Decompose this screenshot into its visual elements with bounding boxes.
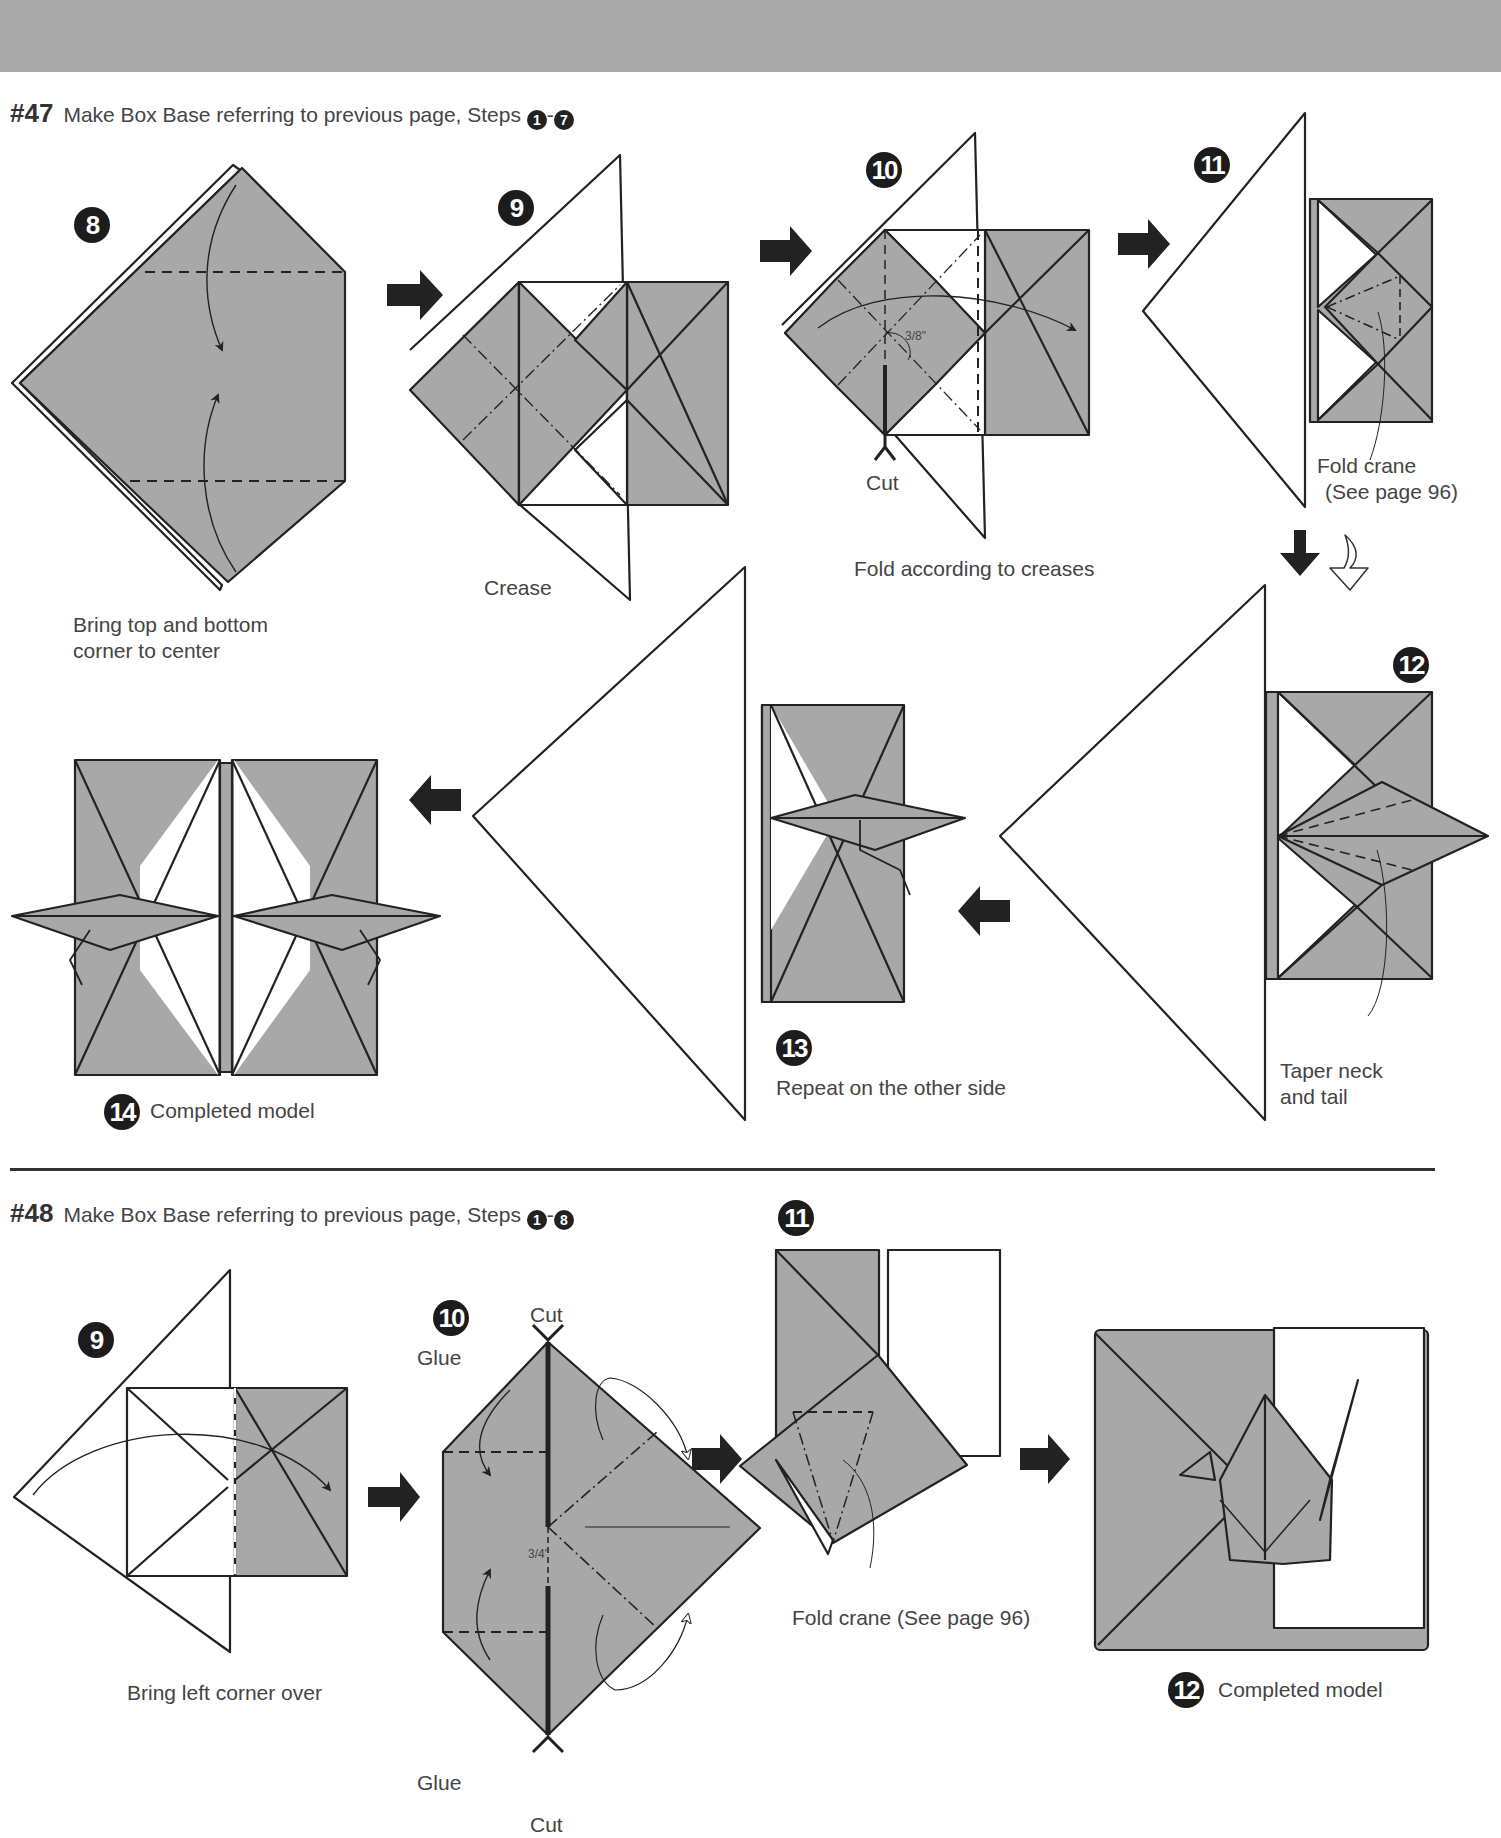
step-8-caption: Bring top and bottom corner to center [73, 612, 268, 664]
step-number-8: 8 [74, 207, 110, 243]
step-14-diagram [12, 760, 440, 1075]
caption-line: corner to center [73, 638, 268, 664]
range-separator: - [547, 1203, 554, 1226]
step-number-48-12: 12 [1168, 1672, 1204, 1708]
step-badge-start: 1 [527, 1210, 547, 1230]
cut-top-label: Cut [530, 1302, 563, 1328]
caption-line: Taper neck [1280, 1058, 1383, 1084]
step-11-caption: Fold crane (See page 96) [1317, 453, 1458, 505]
step-14-caption: Completed model [150, 1098, 315, 1124]
step-48-10-diagram [443, 1325, 760, 1752]
prev-arrow-icon [409, 775, 461, 825]
section-number: #48 [10, 1198, 53, 1228]
step-number-48-9: 9 [78, 1322, 114, 1358]
step-48-11-diagram [740, 1250, 1000, 1568]
step-10-caption: Fold according to creases [854, 556, 1094, 582]
step-10-diagram [782, 133, 1089, 538]
step-number-48-11: 11 [778, 1200, 814, 1236]
cut-bottom-label: Cut [530, 1812, 563, 1838]
next-arrow-icon [1118, 219, 1170, 269]
diagram-canvas [0, 0, 1501, 1838]
step-number-48-10: 10 [433, 1300, 469, 1336]
next-arrow-icon [387, 270, 443, 320]
step-9-caption: Crease [484, 575, 552, 601]
step-48-9-diagram [14, 1270, 347, 1652]
step-11-diagram [1143, 113, 1432, 507]
step-13-diagram [473, 567, 965, 1120]
section-instruction: Make Box Base referring to previous page… [63, 1203, 521, 1226]
step-number-10: 10 [866, 152, 902, 188]
caption-line: Bring top and bottom [73, 612, 268, 638]
step-48-9-caption: Bring left corner over [127, 1680, 322, 1706]
step-48-12-diagram [1095, 1328, 1428, 1650]
measure-label: 3/8" [905, 330, 926, 342]
step-number-13: 13 [776, 1030, 812, 1066]
next-arrow-icon [1020, 1434, 1070, 1484]
section-divider [10, 1168, 1435, 1171]
prev-arrow-icon [958, 886, 1010, 936]
measure-label: 3/4" [528, 1548, 549, 1560]
glue-top-label: Glue [417, 1345, 461, 1371]
step-12-caption: Taper neck and tail [1280, 1058, 1383, 1110]
step-8-diagram [12, 165, 345, 590]
caption-line: Fold crane [1317, 453, 1458, 479]
caption-line: and tail [1280, 1084, 1383, 1110]
section-48-heading: #48Make Box Base referring to previous p… [10, 1198, 574, 1230]
turnover-arrow-icon [1330, 535, 1368, 590]
step-13-caption: Repeat on the other side [776, 1075, 1006, 1101]
down-arrow-icon [1280, 530, 1320, 576]
step-number-9: 9 [498, 190, 534, 226]
caption-line: (See page 96) [1317, 479, 1458, 505]
step-number-12: 12 [1393, 647, 1429, 683]
step-9-diagram [410, 155, 728, 600]
next-arrow-icon [760, 226, 812, 276]
step-number-11: 11 [1194, 147, 1230, 183]
cut-label: Cut [866, 470, 899, 496]
step-number-14: 14 [104, 1094, 140, 1130]
glue-bottom-label: Glue [417, 1770, 461, 1796]
step-48-12-caption: Completed model [1218, 1677, 1383, 1703]
step-48-11-caption: Fold crane (See page 96) [792, 1605, 1030, 1631]
step-badge-end: 8 [554, 1210, 574, 1230]
next-arrow-icon [368, 1472, 420, 1522]
